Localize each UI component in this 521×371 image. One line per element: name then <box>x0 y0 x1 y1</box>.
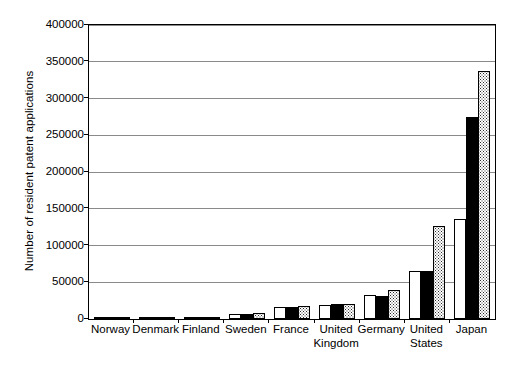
y-tick-label: 100000 <box>4 240 84 251</box>
bar <box>421 271 433 319</box>
bar-group <box>179 25 224 319</box>
y-axis-ticks: 0500001000001500002000002500003000003500… <box>0 24 84 318</box>
bar <box>343 304 355 319</box>
bar <box>433 226 445 319</box>
bar-group <box>315 25 360 319</box>
bar <box>319 305 331 319</box>
bar-group <box>405 25 450 319</box>
y-tick-label: 300000 <box>4 93 84 104</box>
y-tick-label: 50000 <box>4 276 84 287</box>
plot-area <box>88 24 496 320</box>
bar-group <box>89 25 134 319</box>
bar-chart-figure: Number of resident patent applications 0… <box>0 0 521 371</box>
y-tick-label: 150000 <box>4 203 84 214</box>
bar-group <box>269 25 314 319</box>
bar <box>364 295 376 319</box>
bar-group <box>360 25 405 319</box>
bar <box>376 296 388 319</box>
bar <box>388 290 400 319</box>
bar <box>298 306 310 319</box>
y-tick-label: 400000 <box>4 19 84 30</box>
y-tick-label: 350000 <box>4 56 84 67</box>
x-tick-label: Japan <box>441 323 502 337</box>
bar <box>454 219 466 319</box>
bar-group <box>450 25 495 319</box>
bar <box>478 71 490 319</box>
bar <box>466 117 478 319</box>
bar-group <box>224 25 269 319</box>
bar-group <box>134 25 179 319</box>
x-axis-labels: NorwayDenmarkFinlandSwedenFranceUnited K… <box>88 323 494 367</box>
bar <box>274 307 286 319</box>
y-tick-label: 250000 <box>4 129 84 140</box>
y-tick-label: 200000 <box>4 166 84 177</box>
bar <box>409 271 421 320</box>
y-tick-label: 0 <box>4 313 84 324</box>
bar <box>331 304 343 319</box>
bar <box>286 307 298 319</box>
